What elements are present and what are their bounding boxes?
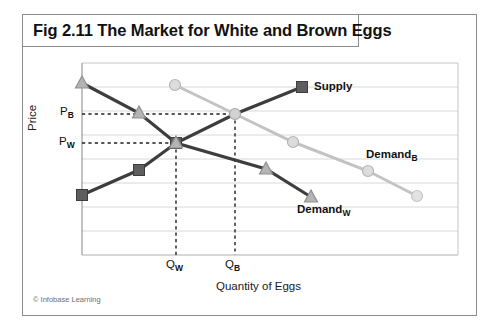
x-axis-label: Quantity of Eggs [216,280,301,292]
figure-frame [22,14,477,316]
series-label-demand-b: DemandB [366,148,418,163]
y-tick-label-price-b: PB [60,105,74,120]
copyright-credit: © Infobase Learning [33,295,101,304]
y-axis-label: Price [26,105,38,131]
figure-title-box: Fig 2.11 The Market for White and Brown … [22,14,359,47]
series-label-demand-w: DemandW [297,203,350,218]
page-title: Fig 2.11 The Market for White and Brown … [23,21,392,40]
x-tick-label-quantity-w: QW [166,258,183,273]
series-label-supply: Supply [314,80,352,92]
x-tick-label-quantity-b: QB [225,258,240,273]
y-tick-label-price-w: PW [59,135,75,150]
